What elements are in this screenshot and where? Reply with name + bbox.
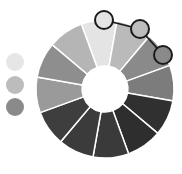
handle-2[interactable] bbox=[131, 20, 149, 38]
color-wheel-picker bbox=[0, 0, 182, 174]
handle-3[interactable] bbox=[154, 46, 172, 64]
palette-swatches bbox=[6, 53, 24, 116]
swatch-1[interactable] bbox=[6, 53, 24, 71]
swatch-2[interactable] bbox=[6, 76, 24, 94]
color-wheel[interactable] bbox=[36, 20, 174, 158]
handle-1[interactable] bbox=[95, 11, 113, 29]
swatch-3[interactable] bbox=[6, 98, 24, 116]
